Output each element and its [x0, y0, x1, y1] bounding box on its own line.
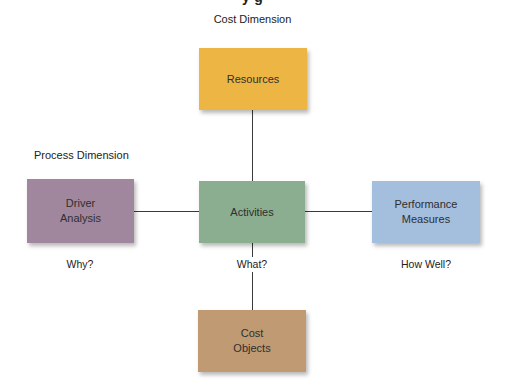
question-why: Why?	[40, 258, 120, 270]
question-how-well: How Well?	[386, 258, 466, 270]
node-cost-objects: Cost Objects	[198, 310, 306, 372]
node-performance-measures-line1: Performance	[395, 197, 458, 212]
connector-activities-costobjects-upper	[252, 243, 253, 257]
cost-dimension-label: Cost Dimension	[0, 13, 505, 25]
connector-activities-performance	[305, 211, 372, 212]
connector-resources-activities	[252, 110, 253, 181]
cropped-figure-title: y g	[0, 0, 505, 5]
node-performance-measures-line2: Measures	[402, 212, 450, 227]
connector-activities-costobjects-lower	[252, 272, 253, 310]
node-cost-objects-line1: Cost	[241, 326, 264, 341]
node-cost-objects-line2: Objects	[233, 341, 270, 356]
node-driver-analysis-line1: Driver	[66, 196, 95, 211]
node-driver-analysis-line2: Analysis	[60, 211, 101, 226]
node-resources-label: Resources	[227, 72, 280, 87]
node-driver-analysis: Driver Analysis	[27, 179, 134, 243]
node-activities: Activities	[199, 181, 305, 243]
question-what: What?	[212, 258, 292, 270]
node-performance-measures: Performance Measures	[372, 181, 480, 243]
connector-driver-activities	[134, 211, 199, 212]
node-activities-label: Activities	[230, 205, 273, 220]
node-resources: Resources	[199, 48, 307, 110]
process-dimension-label: Process Dimension	[34, 149, 129, 161]
